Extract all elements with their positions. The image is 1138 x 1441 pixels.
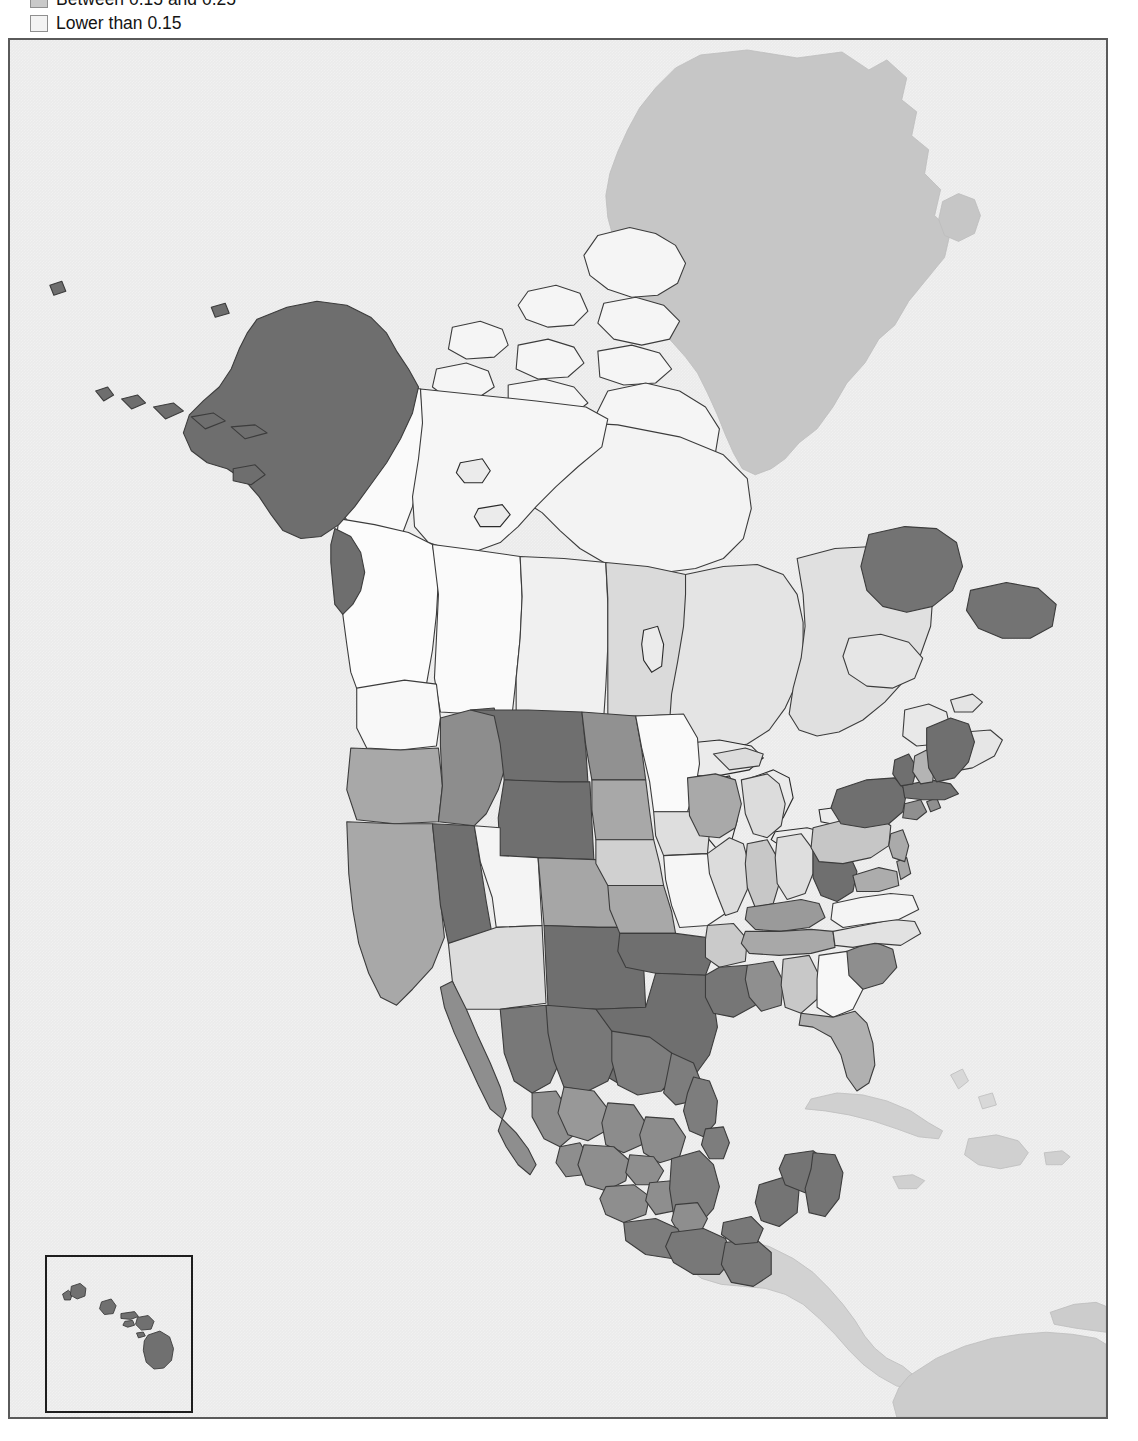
region-connecticut xyxy=(903,800,927,820)
region-baja-california-sur xyxy=(498,1119,536,1175)
legend-item-lower: Lower than 0.15 xyxy=(30,12,450,34)
region-newfoundland-labrador xyxy=(861,527,963,613)
alaska-group xyxy=(50,281,419,614)
region-ohio xyxy=(775,834,813,900)
region-south-america xyxy=(893,1332,1106,1417)
region-california xyxy=(347,822,445,1005)
great-bear-lake xyxy=(456,459,490,483)
region-tabasco xyxy=(721,1217,763,1245)
region-saskatchewan xyxy=(516,556,608,716)
region-arkansas xyxy=(705,923,747,967)
region-arizona xyxy=(448,925,546,1009)
region-veracruz-north xyxy=(701,1127,729,1159)
region-wisconsin xyxy=(688,774,742,838)
legend-swatch-between xyxy=(30,0,48,8)
legend-label-lower: Lower than 0.15 xyxy=(56,14,182,33)
island-oahu xyxy=(100,1299,117,1315)
region-ontario xyxy=(670,564,804,749)
choropleth-legend: Between 0.15 and 0.25 Lower than 0.15 xyxy=(30,0,450,34)
region-oregon xyxy=(347,748,443,824)
region-tennessee xyxy=(741,929,835,955)
region-zacatecas xyxy=(602,1103,646,1153)
region-jamaica xyxy=(893,1175,925,1189)
island-kauai xyxy=(70,1283,86,1299)
region-arctic-isl-1 xyxy=(518,285,588,327)
legend-swatch-lower xyxy=(30,15,48,32)
region-kansas xyxy=(608,886,676,934)
region-prince-edward-island xyxy=(951,694,983,712)
region-new-york xyxy=(831,778,907,828)
region-wyoming xyxy=(498,780,594,860)
region-michoacan xyxy=(600,1185,650,1223)
island-lanai xyxy=(123,1320,135,1327)
region-south-dakota xyxy=(592,780,654,840)
region-maine xyxy=(927,718,975,782)
region-arctic-isl-4 xyxy=(516,339,584,379)
hawaii-inset xyxy=(45,1255,193,1413)
region-arctic-isl-3 xyxy=(448,321,508,359)
region-arctic-island-ne xyxy=(939,194,981,242)
region-cuba xyxy=(805,1093,942,1139)
hawaii-islands-map xyxy=(47,1257,191,1411)
region-bahamas xyxy=(951,1069,997,1109)
island-kahoolawe xyxy=(137,1332,146,1338)
region-indiana xyxy=(745,840,779,908)
region-south-america-detail xyxy=(1050,1302,1106,1332)
region-nebraska xyxy=(596,840,664,886)
region-maryland xyxy=(853,868,899,892)
island-hawaii xyxy=(143,1331,173,1369)
map-frame: .b { stroke:#3c3c3c; stroke-width:1.1; s… xyxy=(8,38,1108,1419)
region-new-jersey xyxy=(889,830,909,862)
region-florida xyxy=(799,1011,875,1091)
region-hispaniola xyxy=(965,1135,1029,1169)
legend-item-between: Between 0.15 and 0.25 xyxy=(30,0,450,10)
region-puerto-rico xyxy=(1044,1151,1070,1165)
region-oklahoma xyxy=(618,933,712,975)
legend-label-between: Between 0.15 and 0.25 xyxy=(56,0,236,9)
island-maui xyxy=(136,1316,154,1331)
region-newfoundland-island xyxy=(967,582,1057,638)
region-washington xyxy=(357,680,441,750)
north-america-choropleth: .b { stroke:#3c3c3c; stroke-width:1.1; s… xyxy=(10,40,1106,1417)
region-alaska-isl xyxy=(50,281,229,317)
region-alabama xyxy=(781,955,819,1013)
region-arctic-isl-5 xyxy=(598,345,672,385)
island-molokai xyxy=(121,1312,139,1320)
region-alberta xyxy=(432,545,522,715)
us-states xyxy=(347,680,975,1091)
region-north-dakota xyxy=(582,712,646,780)
